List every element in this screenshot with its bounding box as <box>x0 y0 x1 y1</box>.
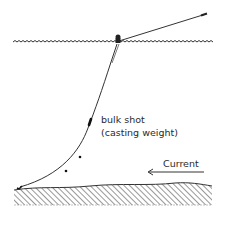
bulk-shot-label: bulk shot <box>101 114 145 125</box>
water-surface <box>13 41 213 43</box>
casting-weight-label: (casting weight) <box>101 127 178 138</box>
rod-line <box>119 14 206 41</box>
float-stem <box>112 44 119 63</box>
bulk-shot-icon <box>89 119 91 125</box>
current-label: Current <box>163 158 199 169</box>
small-shot-icon <box>79 156 82 159</box>
small-shot-icon <box>65 170 68 173</box>
seabed <box>14 183 212 205</box>
current-arrow-icon <box>148 169 204 175</box>
rod-tip-icon <box>201 14 207 16</box>
hook-icon <box>17 186 22 189</box>
float-icon <box>116 35 121 44</box>
